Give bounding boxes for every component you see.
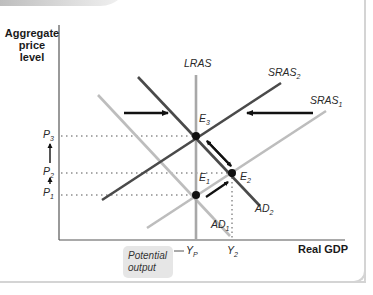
ad2-label: AD2 (255, 202, 274, 216)
e2-point (228, 169, 236, 177)
callout-line1: Potential (128, 250, 173, 262)
e1-point (192, 191, 200, 199)
sras1-label: SRAS1 (310, 94, 343, 108)
y-axis-label: Aggregate price level (4, 27, 60, 63)
ad2-curve (138, 77, 260, 206)
diagram-canvas: Aggregate price level Real GDP LRAS SRAS… (0, 0, 373, 295)
ad1-label: AD1 (211, 218, 230, 232)
p3-label: P3 (43, 128, 54, 142)
lras-label: LRAS (184, 57, 211, 69)
e1-label: E1 (199, 171, 210, 185)
p1-label: P1 (43, 186, 54, 200)
e3-point (192, 132, 200, 140)
e3-label: E3 (199, 112, 210, 126)
y2-label: Y2 (227, 244, 238, 258)
y-label-line1: Aggregate (4, 27, 60, 39)
sras1-curve (147, 111, 326, 228)
y-label-line3: level (4, 51, 60, 63)
ad1-curve (98, 95, 230, 236)
e2-label: E2 (240, 170, 251, 184)
sras2-label: SRAS2 (268, 66, 301, 80)
y-label-line2: price (4, 39, 60, 51)
p2-label: P2 (43, 165, 54, 179)
x-axis-label: Real GDP (298, 243, 348, 255)
sras2-curve (102, 83, 281, 200)
yp-label: YP (186, 244, 198, 258)
potential-output-callout: Potential output (123, 246, 173, 278)
callout-line2: output (128, 262, 173, 274)
